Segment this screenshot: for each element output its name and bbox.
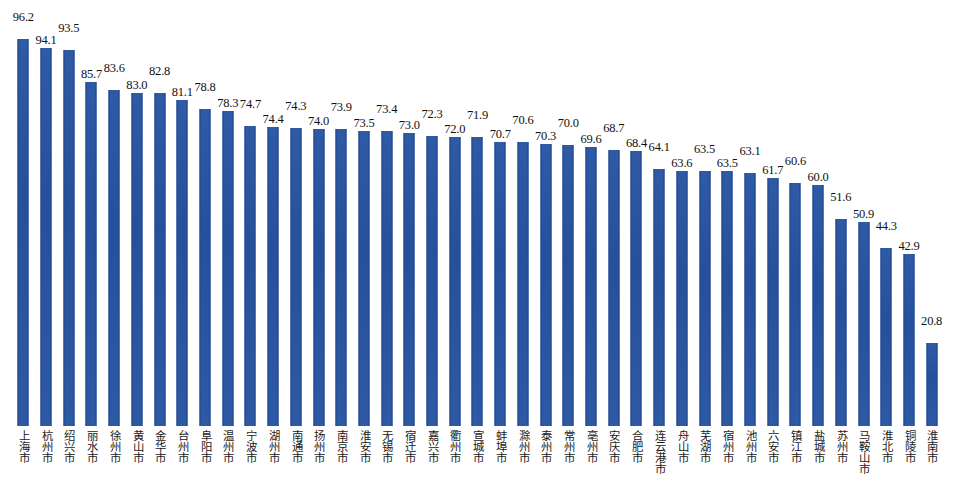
bar[interactable] xyxy=(109,90,120,427)
bar[interactable] xyxy=(131,93,142,427)
bar-value-label: 93.5 xyxy=(58,22,79,34)
x-axis-label: 铜陵市 xyxy=(903,430,914,463)
bar[interactable] xyxy=(86,82,97,427)
x-axis-label: 扬州市 xyxy=(313,430,324,463)
bar-slot: 93.5 xyxy=(57,0,80,427)
bar[interactable] xyxy=(563,145,574,427)
bar-slot: 96.2 xyxy=(12,0,35,427)
bar-value-label: 63.1 xyxy=(739,145,760,157)
bar-slot: 73.5 xyxy=(353,0,376,427)
bar-value-label: 61.7 xyxy=(762,164,783,176)
bar[interactable] xyxy=(790,183,801,427)
bar[interactable] xyxy=(654,169,665,427)
bar[interactable] xyxy=(154,93,165,427)
bar[interactable] xyxy=(835,219,846,427)
bar[interactable] xyxy=(449,137,460,427)
bar-value-label: 81.1 xyxy=(172,86,193,98)
x-axis-label: 连云港市 xyxy=(653,430,664,474)
bar[interactable] xyxy=(41,48,52,427)
bar-value-label: 68.4 xyxy=(626,137,647,149)
bar[interactable] xyxy=(926,343,937,427)
bar[interactable] xyxy=(631,151,642,427)
bar[interactable] xyxy=(63,50,74,427)
bar-value-label: 94.1 xyxy=(36,34,57,46)
bar-slot: 61.7 xyxy=(761,0,784,427)
bar-slot: 64.1 xyxy=(648,0,671,427)
bar-value-label: 73.9 xyxy=(331,101,352,113)
bar-slot: 73.9 xyxy=(330,0,353,427)
x-axis-label: 黄山市 xyxy=(131,430,142,463)
bar[interactable] xyxy=(313,129,324,427)
bar-value-label: 70.7 xyxy=(490,128,511,140)
bar[interactable] xyxy=(858,222,869,427)
bar[interactable] xyxy=(767,178,778,427)
bar[interactable] xyxy=(268,127,279,427)
x-axis-label: 徐州市 xyxy=(108,430,119,463)
bar[interactable] xyxy=(200,109,211,427)
bar[interactable] xyxy=(18,39,29,427)
bar[interactable] xyxy=(676,171,687,427)
bar-slot: 42.9 xyxy=(898,0,921,427)
bar[interactable] xyxy=(404,133,415,427)
bar[interactable] xyxy=(495,142,506,427)
bar-value-label: 71.9 xyxy=(467,109,488,121)
x-axis-label: 丽水市 xyxy=(86,430,97,463)
bar-slot: 72.3 xyxy=(421,0,444,427)
bar[interactable] xyxy=(881,248,892,427)
bar-slot: 73.4 xyxy=(375,0,398,427)
bar-value-label: 63.6 xyxy=(671,157,692,169)
bar-slot: 44.3 xyxy=(875,0,898,427)
bar[interactable] xyxy=(608,150,619,427)
bar[interactable] xyxy=(722,171,733,427)
bar[interactable] xyxy=(245,126,256,427)
bar-chart: 96.294.193.585.783.683.082.881.178.878.3… xyxy=(0,0,953,486)
bar-slot: 71.9 xyxy=(466,0,489,427)
bar-value-label: 60.0 xyxy=(808,171,829,183)
x-axis-label: 宣城市 xyxy=(472,430,483,463)
bar-slot: 74.7 xyxy=(239,0,262,427)
bar-slot: 70.7 xyxy=(489,0,512,427)
plot-area: 96.294.193.585.783.683.082.881.178.878.3… xyxy=(0,0,953,427)
bar-value-label: 68.7 xyxy=(603,122,624,134)
bar-value-label: 83.0 xyxy=(126,79,147,91)
bar-slot: 68.4 xyxy=(625,0,648,427)
bar-value-label: 74.0 xyxy=(308,115,329,127)
bar[interactable] xyxy=(472,137,483,427)
bar[interactable] xyxy=(381,131,392,427)
bar[interactable] xyxy=(903,254,914,427)
bar[interactable] xyxy=(336,129,347,427)
x-axis-label: 池州市 xyxy=(744,430,755,463)
bar-slot: 70.6 xyxy=(512,0,535,427)
bar[interactable] xyxy=(699,171,710,427)
bar[interactable] xyxy=(358,131,369,427)
bar[interactable] xyxy=(517,142,528,427)
bar[interactable] xyxy=(177,100,188,427)
x-axis-label: 蚌埠市 xyxy=(495,430,506,463)
bar[interactable] xyxy=(540,144,551,427)
bar-slot: 82.8 xyxy=(148,0,171,427)
bar-value-label: 70.3 xyxy=(535,130,556,142)
bar-value-label: 70.0 xyxy=(558,117,579,129)
x-axis-label: 镇江市 xyxy=(790,430,801,463)
x-axis-label: 泰州市 xyxy=(540,430,551,463)
x-axis-label: 嘉兴市 xyxy=(426,430,437,463)
x-axis-label: 杭州市 xyxy=(40,430,51,463)
bar[interactable] xyxy=(586,147,597,427)
bar-value-label: 42.9 xyxy=(898,240,919,252)
bar-slot: 74.0 xyxy=(307,0,330,427)
bar-value-label: 70.6 xyxy=(512,114,533,126)
bar[interactable] xyxy=(744,173,755,427)
x-axis-label: 金华市 xyxy=(154,430,165,463)
bar[interactable] xyxy=(813,185,824,427)
bar-value-label: 63.5 xyxy=(717,157,738,169)
bar[interactable] xyxy=(222,111,233,427)
bar-slot: 81.1 xyxy=(171,0,194,427)
bar-value-label: 96.2 xyxy=(13,11,34,23)
x-axis-label: 芜湖市 xyxy=(699,430,710,463)
x-axis-label: 无锡市 xyxy=(381,430,392,463)
bar-value-label: 51.6 xyxy=(830,191,851,203)
bar-value-label: 78.8 xyxy=(194,81,215,93)
bar[interactable] xyxy=(290,128,301,427)
bar-slot: 83.0 xyxy=(126,0,149,427)
bar[interactable] xyxy=(427,136,438,427)
